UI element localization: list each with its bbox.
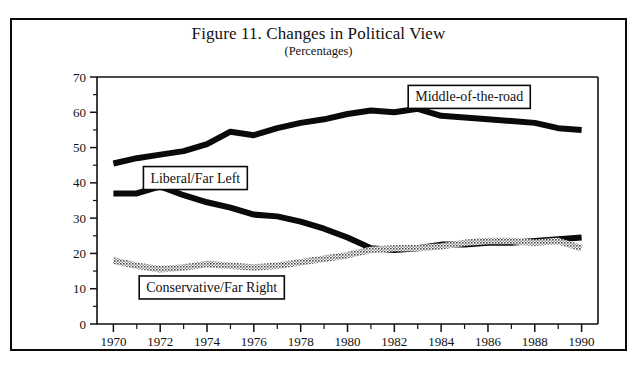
x-axis-tick-label: 1986 [475,334,502,349]
y-axis-tick-label: 0 [80,317,87,332]
x-axis-tick-label: 1978 [288,334,314,349]
x-axis-tick-label: 1990 [569,334,595,349]
x-axis-tick-label: 1988 [522,334,548,349]
series-label-text: Conservative/Far Right [146,280,277,295]
y-axis-tick-label: 60 [73,105,86,120]
x-axis-tick-label: 1974 [194,334,221,349]
axes-group: 0102030405060701970197219741976197819801… [73,70,598,350]
y-axis-tick-label: 10 [73,281,86,296]
x-axis-tick-label: 1972 [147,334,173,349]
x-axis-tick-label: 1976 [241,334,268,349]
y-axis-tick-label: 70 [73,70,86,85]
series-label-text: Middle-of-the-road [415,89,523,104]
y-axis-tick-label: 20 [73,246,86,261]
y-axis-tick-label: 50 [73,140,86,155]
chart-plot-area: 0102030405060701970197219741976197819801… [12,20,625,349]
series-label: Conservative/Far Right [139,276,284,299]
series-label: Middle-of-the-road [408,85,530,108]
x-axis-tick-label: 1982 [381,334,407,349]
y-axis-tick-label: 40 [73,175,86,190]
series-line [113,109,581,164]
series-label: Liberal/Far Left [143,167,247,190]
x-axis-tick-label: 1970 [100,334,126,349]
figure-frame: Figure 11. Changes in Political View (Pe… [10,18,627,351]
series-label-text: Liberal/Far Left [150,171,240,186]
y-axis-tick-label: 30 [73,211,86,226]
x-axis-tick-label: 1984 [428,334,455,349]
x-axis-tick-label: 1980 [335,334,361,349]
